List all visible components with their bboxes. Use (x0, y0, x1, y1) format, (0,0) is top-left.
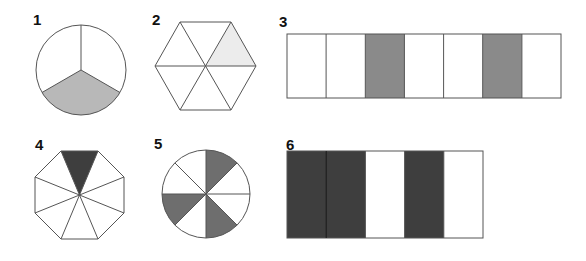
figure-2: 2 (152, 11, 256, 110)
figure-6: 6 (286, 136, 483, 238)
shaded-sector (206, 194, 237, 238)
rectangle-fifths (287, 151, 483, 238)
rectangle-sevenths (287, 34, 561, 98)
figure-1: 1 (33, 11, 126, 115)
shaded-triangle (61, 151, 98, 195)
fraction-diagram: 1 2 3 (0, 0, 586, 261)
figure-5: 5 (154, 135, 250, 238)
shaded-sector (42, 70, 120, 115)
figure-label: 6 (286, 136, 294, 153)
figure-label: 5 (154, 135, 162, 152)
shaded-sector (206, 150, 237, 194)
circle-eighths (162, 150, 250, 238)
circle-thirds (36, 25, 126, 115)
figure-label: 2 (152, 11, 160, 28)
figure-label: 4 (35, 136, 44, 153)
hexagon-sixths (155, 22, 256, 110)
shaded-triangle (206, 22, 256, 66)
figure-label: 1 (33, 11, 41, 28)
shaded-cell (405, 151, 444, 238)
figure-label: 3 (279, 13, 287, 30)
octagon-eighths (35, 151, 124, 239)
shaded-sector (162, 194, 206, 225)
figure-3: 3 (279, 13, 561, 98)
shaded-cell (483, 34, 522, 98)
shaded-cell (365, 34, 404, 98)
figure-4: 4 (35, 136, 124, 239)
